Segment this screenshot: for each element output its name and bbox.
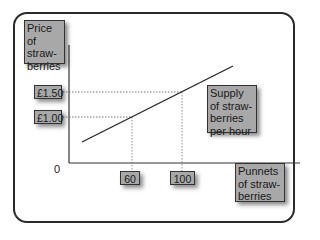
curve-label: Supply of straw-berries per hour: [207, 85, 257, 133]
curve-label-text: Supply of straw-berries per hour: [210, 87, 252, 137]
origin-label: 0: [54, 163, 60, 175]
x-axis-label-text: Punnets of straw-berries: [238, 165, 280, 202]
y-axis-label-text: Price of straw-berries: [27, 22, 61, 72]
y-axis-label: Price of straw-berries: [24, 20, 65, 64]
x-tick-low: 60: [120, 171, 140, 185]
y-tick-low: £1.00: [34, 110, 62, 124]
y-tick-low-text: £1.00: [37, 112, 63, 124]
x-tick-low-text: 60: [124, 173, 136, 185]
x-tick-high-text: 100: [174, 173, 192, 185]
x-tick-high: 100: [170, 171, 195, 185]
x-axis-label: Punnets of straw-berries: [235, 163, 285, 202]
y-tick-high-text: £1.50: [37, 87, 63, 99]
y-tick-high: £1.50: [34, 85, 62, 99]
